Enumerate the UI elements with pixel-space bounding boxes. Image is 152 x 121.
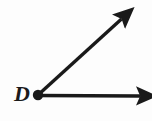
angle-diagram-canvas: D — [0, 0, 152, 121]
angle-diagram-figure: D — [0, 0, 152, 121]
vertex-label-d: D — [13, 81, 30, 106]
vertex-point-d — [33, 90, 43, 100]
horizontal-ray — [38, 96, 140, 97]
diagonal-ray — [38, 19, 122, 95]
